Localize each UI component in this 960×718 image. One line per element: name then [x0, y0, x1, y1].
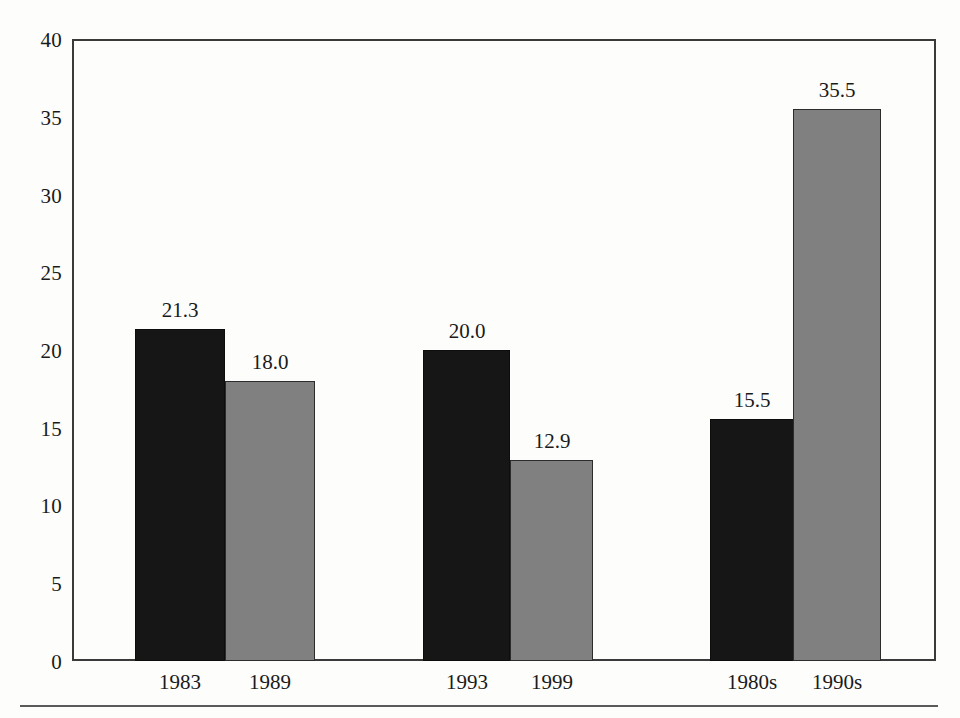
y-tick-label-15: 15	[14, 419, 62, 440]
bar-1983[interactable]	[135, 329, 225, 661]
y-tick-label-35: 35	[14, 108, 62, 129]
bar-value-1990s: 35.5	[787, 80, 887, 101]
bar-value-1980s: 15.5	[702, 390, 802, 411]
y-tick-label-0: 0	[14, 652, 62, 673]
x-axis-label-1990s: 1990s	[785, 672, 889, 693]
bar-1999[interactable]	[510, 460, 593, 661]
y-tick-label-20: 20	[14, 341, 62, 362]
x-axis-label-1999: 1999	[502, 672, 602, 693]
y-tick-label-5: 5	[14, 574, 62, 595]
bar-1993[interactable]	[423, 350, 510, 661]
bar-1980s[interactable]	[710, 419, 794, 661]
bar-value-1993: 20.0	[417, 321, 517, 342]
caption-divider-rule	[20, 705, 938, 707]
y-tick-label-30: 30	[14, 186, 62, 207]
y-tick-label-25: 25	[14, 263, 62, 284]
y-axis-labels: 40 35 30 25 20 15 10 5 0	[0, 0, 62, 718]
x-axis-label-1989: 1989	[220, 672, 320, 693]
bar-1989[interactable]	[225, 381, 315, 661]
y-tick-label-10: 10	[14, 496, 62, 517]
caption-text-sliver	[24, 712, 444, 718]
bar-value-1999: 12.9	[502, 431, 602, 452]
bar-1990s[interactable]	[793, 109, 881, 661]
x-axis-label-1983: 1983	[130, 672, 230, 693]
bar-value-1989: 18.0	[220, 352, 320, 373]
bar-value-1983: 21.3	[130, 300, 230, 321]
bar-chart-figure: 40 35 30 25 20 15 10 5 0 21.3 1983 18.0 …	[0, 0, 960, 718]
y-tick-label-40: 40	[14, 30, 62, 51]
